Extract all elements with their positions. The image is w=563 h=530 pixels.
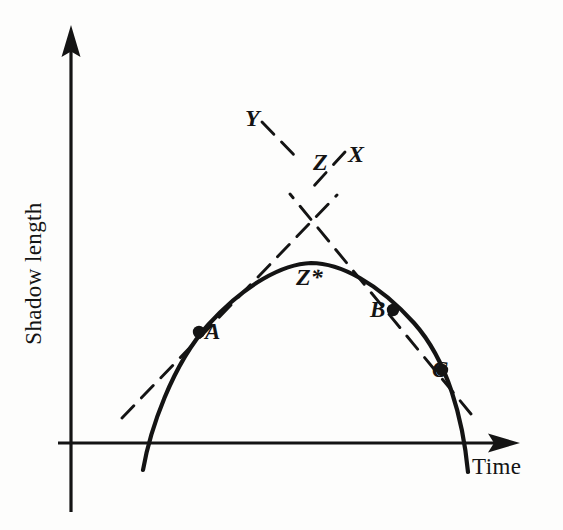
shadow-length-vs-time-figure: Shadow length Time Y X Z Z* A B C	[0, 0, 563, 530]
curve-apex-label-z-star: Z*	[296, 265, 323, 289]
figure-canvas	[0, 0, 563, 530]
y-axis-label: Shadow length	[22, 149, 45, 399]
marker-point-b	[387, 304, 399, 316]
y-axis-label-wrapper: Shadow length	[6, 150, 46, 400]
point-label-b: B	[370, 298, 385, 321]
shadow-length-curve	[143, 263, 468, 472]
marker-point-a	[193, 326, 205, 338]
tangent-label-y: Y	[245, 106, 260, 130]
x-axis-label: Time	[472, 455, 521, 478]
tangent-label-x: X	[348, 142, 364, 166]
point-label-a: A	[205, 320, 220, 343]
intersection-label-z: Z	[313, 150, 328, 174]
point-label-c: C	[432, 358, 447, 381]
